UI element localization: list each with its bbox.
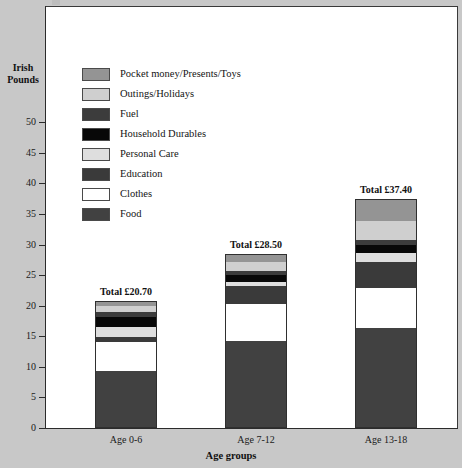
y-axis-tick [39,275,46,276]
legend-swatch [82,108,110,121]
y-axis-tick [39,214,46,215]
legend-label: Pocket money/Presents/Toys [120,67,241,81]
stacked-bar [355,0,417,468]
bar-segment-pocket-money-presents-toys [95,301,157,306]
y-axis-tick-label: 25 [2,270,36,280]
chart-legend: Pocket money/Presents/ToysOutings/Holida… [82,66,312,226]
y-axis-tick [39,397,46,398]
bar-segment-personal-care [95,327,157,337]
bar-segment-education [355,262,417,288]
y-axis-tick-label: 20 [2,301,36,311]
y-axis-tick-label: 35 [2,209,36,219]
bar-segment-food [355,328,417,428]
legend-swatch [82,168,110,181]
legend-item: Pocket money/Presents/Toys [82,66,312,86]
legend-swatch [82,88,110,101]
bar-segment-pocket-money-presents-toys [355,199,417,220]
x-axis-title: Age groups [0,450,462,461]
paper-speck [52,0,60,5]
y-axis-tick-label: 50 [2,117,36,127]
bar-segment-food [225,341,287,428]
legend-swatch [82,148,110,161]
legend-item: Food [82,206,312,226]
y-axis-tick-label: 15 [2,331,36,341]
bar-segment-clothes [355,288,417,328]
legend-item: Outings/Holidays [82,86,312,106]
bar-segment-household-durables [225,275,287,282]
bar-segment-personal-care [355,253,417,262]
bar-segment-fuel [225,271,287,275]
y-axis-tick [39,183,46,184]
y-axis-tick [39,245,46,246]
bar-total-label: Total £37.40 [326,184,446,195]
y-axis-tick [39,367,46,368]
legend-label: Fuel [120,107,139,121]
bar-segment-outings-holidays [225,262,287,271]
bar-total-label: Total £28.50 [196,239,316,250]
y-axis-tick-label: 40 [2,178,36,188]
legend-label: Food [120,207,142,221]
y-axis-tick-label: 0 [2,423,36,433]
x-axis-tick-label: Age 0-6 [71,434,181,445]
legend-label: Education [120,167,163,181]
legend-label: Clothes [120,187,152,201]
legend-swatch [82,188,110,201]
legend-swatch [82,68,110,81]
bar-segment-education [95,337,157,341]
legend-label: Personal Care [120,147,179,161]
bar-segment-household-durables [95,317,157,327]
y-axis-title-line2: Pounds [4,74,42,86]
y-axis-tick [39,122,46,123]
legend-item: Education [82,166,312,186]
bar-segment-clothes [225,304,287,340]
bar-segment-food [95,371,157,428]
y-axis-tick [39,153,46,154]
bar-segment-fuel [355,240,417,246]
y-axis-line [45,6,46,429]
legend-item: Personal Care [82,146,312,166]
y-axis-tick [39,428,46,429]
y-axis-title: Irish Pounds [4,62,42,86]
y-axis-tick-label: 5 [2,392,36,402]
chart-figure: 05101520253035404550 Irish Pounds Total … [0,0,462,468]
bar-segment-pocket-money-presents-toys [225,254,287,262]
bar-segment-personal-care [225,282,287,286]
y-axis-title-line1: Irish [4,62,42,74]
bar-segment-outings-holidays [355,221,417,240]
y-axis-tick-label: 10 [2,362,36,372]
x-axis-tick-label: Age 13-18 [331,434,441,445]
legend-item: Household Durables [82,126,312,146]
legend-swatch [82,208,110,221]
bar-segment-clothes [95,342,157,371]
bar-segment-fuel [95,312,157,318]
legend-item: Fuel [82,106,312,126]
bar-segment-outings-holidays [95,306,157,312]
y-axis-tick-label: 30 [2,240,36,250]
legend-item: Clothes [82,186,312,206]
bar-segment-education [225,286,287,304]
y-axis-tick [39,306,46,307]
bar-segment-household-durables [355,245,417,253]
legend-label: Outings/Holidays [120,87,194,101]
bar-total-label: Total £20.70 [66,286,186,297]
x-axis-tick-label: Age 7-12 [201,434,311,445]
y-axis-tick-label: 45 [2,148,36,158]
legend-label: Household Durables [120,127,206,141]
legend-swatch [82,128,110,141]
y-axis-tick [39,336,46,337]
